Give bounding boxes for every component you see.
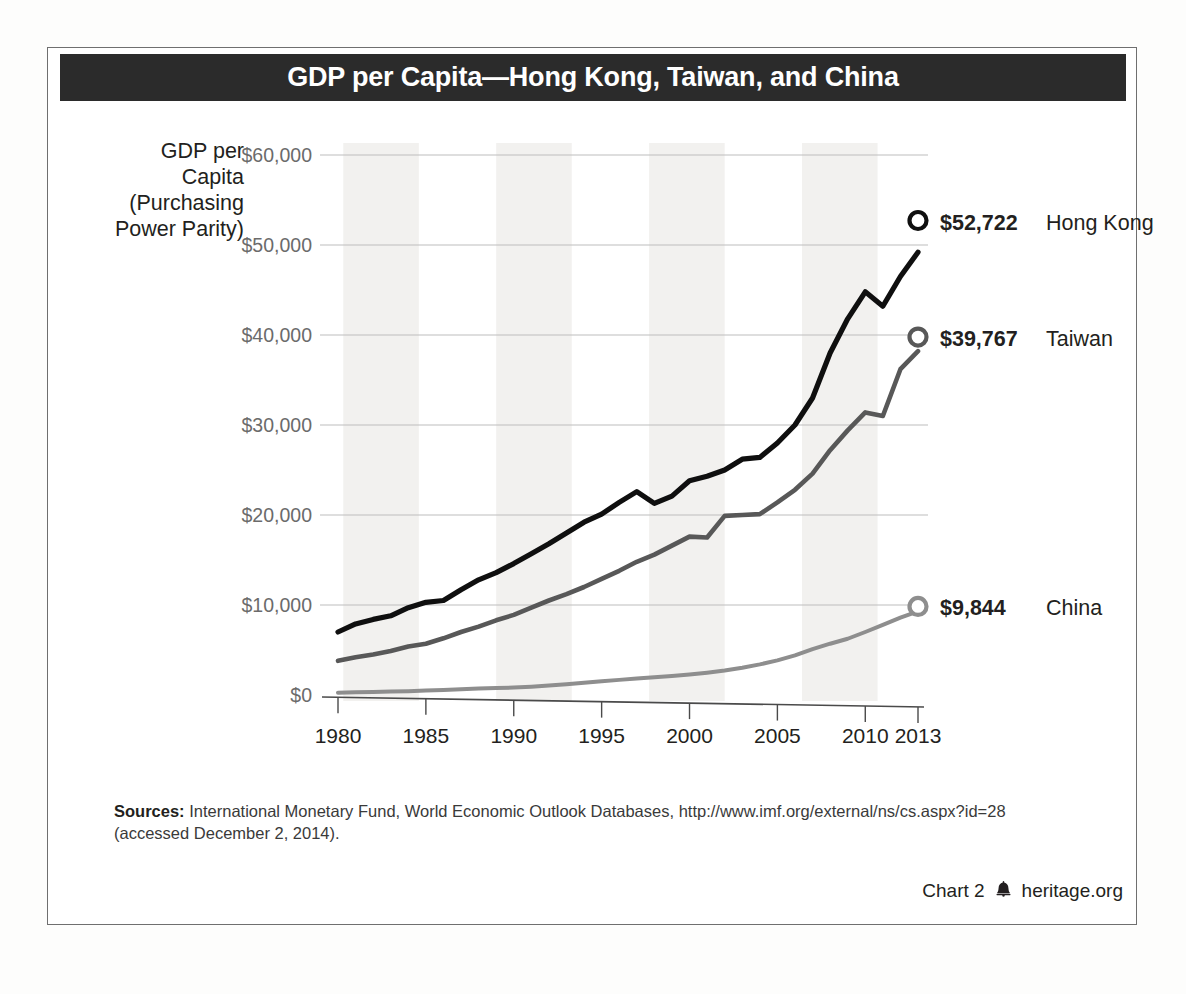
end-name-hong-kong: Hong Kong [1046, 211, 1154, 235]
y-tick-label: $10,000 [242, 594, 313, 616]
sources-line-2: (accessed December 2, 2014). [114, 824, 340, 842]
y-tick-label: $40,000 [242, 324, 313, 346]
x-tick-label: 2013 [895, 724, 942, 747]
x-axis-tick-labels: 19801985199019952000200520102013 [315, 724, 942, 747]
x-tick-label: 1990 [490, 724, 537, 747]
chart-footer: Chart 2 heritage.org [922, 879, 1123, 903]
y-axis-tick-labels: $0$10,000$20,000$30,000$40,000$50,000$60… [242, 144, 313, 706]
end-value-china: $9,844 [940, 596, 1006, 620]
chart-plot: $0$10,000$20,000$30,000$40,000$50,000$60… [0, 0, 1186, 994]
end-value-taiwan: $39,767 [940, 327, 1018, 351]
end-name-china: China [1046, 596, 1102, 620]
end-marker-china [910, 598, 927, 615]
chart-number: Chart 2 [922, 880, 984, 902]
y-tick-label: $60,000 [242, 144, 313, 166]
y-tick-label: $20,000 [242, 504, 313, 526]
end-marker-taiwan [910, 329, 927, 346]
shaded-band [802, 143, 878, 701]
y-tick-label: $50,000 [242, 234, 313, 256]
site-name: heritage.org [1022, 880, 1123, 902]
sources-label: Sources: [114, 802, 185, 820]
end-name-taiwan: Taiwan [1046, 327, 1113, 351]
end-marker-hong-kong [910, 212, 927, 229]
y-tick-label: $30,000 [242, 414, 313, 436]
liberty-bell-icon [994, 879, 1013, 903]
x-tick-label: 2010 [842, 724, 889, 747]
shaded-band [649, 143, 725, 701]
y-tick-label: $0 [290, 684, 312, 706]
x-tick-label: 1995 [578, 724, 625, 747]
series-end-markers [910, 212, 927, 615]
x-tick-label: 1985 [403, 724, 450, 747]
sources-line-1: International Monetary Fund, World Econo… [185, 802, 1006, 820]
chart-page: GDP per Capita—Hong Kong, Taiwan, and Ch… [0, 0, 1186, 994]
x-tick-label: 2005 [754, 724, 801, 747]
x-tick-label: 1980 [315, 724, 362, 747]
series-end-labels: $52,722Hong Kong$39,767Taiwan$9,844China [940, 211, 1154, 621]
sources-note: Sources: International Monetary Fund, Wo… [114, 800, 1119, 844]
end-value-hong-kong: $52,722 [940, 211, 1018, 235]
x-tick-label: 2000 [666, 724, 713, 747]
